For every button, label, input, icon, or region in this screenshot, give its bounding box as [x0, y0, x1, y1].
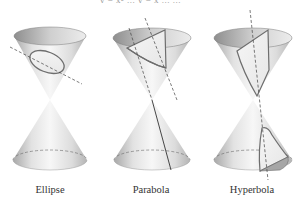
conic-sections-figure [0, 0, 302, 208]
hyperbola-cone [214, 10, 292, 180]
ellipse-label: Ellipse [5, 184, 95, 195]
parabola-label: Parabola [106, 184, 196, 195]
ellipse-cone [10, 27, 87, 170]
parabola-cone [113, 18, 191, 170]
hyperbola-label: Hyperbola [207, 184, 297, 195]
